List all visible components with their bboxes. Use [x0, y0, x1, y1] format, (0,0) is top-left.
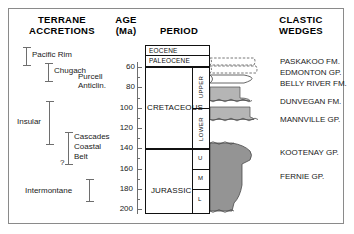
terrane-header-line1: TERRANE: [16, 14, 108, 25]
clastic-label-belly-river: BELLY RIVER FM.: [280, 79, 347, 88]
stratigraphic-chart: TERRANE ACCRETIONS AGE (Ma) PERIOD CLAST…: [0, 0, 354, 234]
age-tick-120: [137, 128, 142, 129]
terrane-label-purcell-anticline-line2: Anticlin.: [78, 81, 106, 91]
age-header-line1: AGE: [106, 14, 146, 25]
age-tick-100: [137, 108, 142, 109]
age-minor-tick-150: [137, 158, 140, 159]
epoch-label-jurassic-lower: L: [198, 196, 202, 202]
age-tick-label-200: 200: [111, 204, 133, 213]
terrane-bar-pacific-rim: [26, 47, 27, 66]
terrane-bar-intermontane: [89, 179, 90, 202]
age-minor-tick-90: [137, 98, 140, 99]
wedge-mannville: [210, 107, 254, 120]
clastic-header-line1: CLASTIC: [255, 14, 347, 25]
age-tick-label-180: 180: [111, 184, 133, 193]
period-label-eocene: EOCENE: [149, 47, 178, 54]
terrane-label-intermontane: Intermontane: [25, 186, 72, 196]
age-minor-tick-70: [137, 77, 140, 78]
epoch-label-jurassic-middle: M: [198, 175, 203, 181]
age-tick-label-120: 120: [111, 123, 133, 132]
clastic-label-dunvegan: DUNVEGAN FM.: [280, 97, 341, 106]
age-tick-label-80: 80: [113, 82, 135, 91]
age-tick-label-160: 160: [111, 164, 133, 173]
age-minor-tick-130: [137, 138, 140, 139]
epoch-label-jurassic-upper: U: [198, 155, 203, 161]
age-tick-180: [137, 189, 142, 190]
age-tick-60: [137, 67, 142, 68]
wedge-kootenay-fernie: [210, 143, 252, 211]
wedge-dunvegan: [210, 87, 250, 101]
age-tick-label-60: 60: [113, 62, 135, 71]
age-minor-tick-170: [137, 179, 140, 180]
epoch-label-lower-cretaceous: LOWER: [198, 115, 204, 143]
age-tick-200: [137, 209, 142, 210]
epoch-divider-jurassic-u-m: [192, 169, 210, 170]
terrane-bar-cascades-coastal-belt: [68, 132, 69, 165]
wedge-edmonton: [210, 66, 257, 73]
age-tick-160: [137, 169, 142, 170]
age-minor-tick-190: [137, 199, 140, 200]
column-header-terrane-accretions: TERRANE ACCRETIONS: [16, 14, 108, 36]
clastic-wedge-shapes: [210, 45, 268, 214]
terrane-header-line2: ACCRETIONS: [16, 25, 108, 36]
clastic-label-kootenay: KOOTENAY GP.: [280, 148, 339, 157]
terrane-bar-insular: [49, 101, 50, 145]
age-tick-label-140: 140: [111, 143, 133, 152]
period-label-paleocene: PALEOCENE: [149, 57, 190, 64]
column-header-age: AGE (Ma): [106, 14, 146, 36]
clastic-header-line2: WEDGES: [255, 25, 347, 36]
clastic-label-edmonton: EDMONTON GP.: [280, 68, 342, 77]
wedge-belly-river: [210, 75, 252, 83]
epoch-divider-upper-lower-cretaceous: [192, 108, 210, 109]
clastic-label-fernie: FERNIE GP.: [280, 172, 324, 181]
epoch-label-upper-cretaceous: UPPER: [198, 73, 204, 101]
terrane-label-cascades-line1: Cascades: [74, 132, 110, 142]
terrane-uncertainty-marker: ?: [60, 158, 64, 167]
terrane-bar-chugach: [48, 63, 49, 82]
clastic-label-mannville: MANNVILLE GP.: [280, 115, 340, 124]
terrane-label-cascades-line3: Belt: [74, 152, 88, 162]
terrane-label-insular: Insular: [17, 117, 41, 127]
column-header-period: PERIOD: [148, 25, 210, 36]
terrane-label-pacific-rim: Pacific Rim: [32, 50, 72, 60]
clastic-label-paskakoo: PASKAKOO FM.: [280, 57, 340, 66]
column-header-clastic-wedges: CLASTIC WEDGES: [255, 14, 347, 36]
age-tick-80: [137, 87, 142, 88]
epoch-divider-jurassic-m-l: [192, 189, 210, 190]
age-minor-tick-110: [137, 118, 140, 119]
period-label-jurassic: JURASSIC: [151, 186, 191, 195]
age-tick-140: [137, 148, 142, 149]
period-divider-eocene-paleocene: [145, 55, 210, 56]
wedge-paskakoo: [210, 58, 255, 65]
terrane-label-cascades-line2: Coastal: [74, 142, 101, 152]
age-tick-label-100: 100: [111, 103, 133, 112]
age-header-line2: (Ma): [106, 25, 146, 36]
